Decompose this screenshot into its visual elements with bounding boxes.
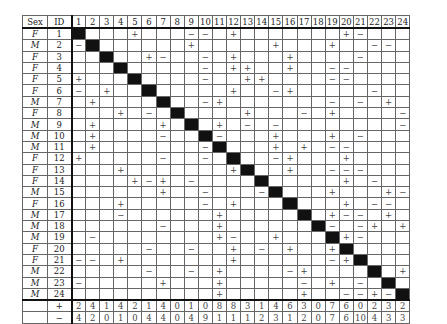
rating-cell (128, 130, 142, 141)
rating-cell (212, 175, 226, 186)
rating-cell: − (382, 288, 396, 300)
total-cell: 3 (396, 312, 410, 323)
rating-cell: + (227, 51, 241, 62)
sex-cell: M (23, 288, 48, 300)
total-cell: 0 (311, 300, 325, 312)
rating-cell (367, 28, 381, 40)
column-header: 19 (325, 16, 339, 29)
rating-cell (170, 130, 184, 141)
rating-cell (367, 254, 381, 265)
rating-cell (128, 119, 142, 130)
rating-cell (128, 198, 142, 209)
rating-cell (184, 164, 198, 175)
rating-cell (325, 85, 339, 96)
rating-cell (227, 108, 241, 119)
total-cell: 0 (353, 300, 367, 312)
rating-cell (382, 175, 396, 186)
diagonal-cell (283, 198, 297, 209)
rating-cell (156, 85, 170, 96)
rating-cell: − (198, 141, 212, 152)
rating-cell: − (198, 96, 212, 107)
total-cell: 0 (100, 312, 114, 323)
rating-cell (184, 277, 198, 288)
rating-cell: − (353, 28, 367, 40)
rating-cell: − (198, 198, 212, 209)
rating-cell (311, 175, 325, 186)
rating-cell: − (86, 254, 100, 265)
total-cell: 0 (170, 300, 184, 312)
column-header: 8 (170, 16, 184, 29)
rating-cell (339, 130, 353, 141)
total-cell: 1 (241, 312, 255, 323)
rating-cell (367, 51, 381, 62)
rating-cell (283, 277, 297, 288)
rating-cell (227, 96, 241, 107)
rating-cell (170, 243, 184, 254)
rating-cell (297, 28, 311, 40)
rating-cell (170, 254, 184, 265)
rating-cell (184, 221, 198, 232)
rating-cell (227, 119, 241, 130)
rating-cell (86, 187, 100, 198)
id-cell: 10 (48, 130, 72, 141)
diagonal-cell (339, 243, 353, 254)
rating-cell (142, 130, 156, 141)
total-cell: 2 (367, 300, 381, 312)
rating-cell: + (128, 28, 142, 40)
id-cell: 3 (48, 51, 72, 62)
sex-cell: M (23, 232, 48, 243)
diagonal-cell (227, 153, 241, 164)
rating-cell (142, 198, 156, 209)
rating-cell (382, 266, 396, 277)
rating-cell (241, 288, 255, 300)
total-cell: 4 (367, 312, 381, 323)
total-cell: 1 (227, 312, 241, 323)
column-header: 11 (212, 16, 226, 29)
rating-cell (382, 74, 396, 85)
rating-cell (156, 141, 170, 152)
rating-cell (142, 288, 156, 300)
rating-cell (170, 62, 184, 73)
rating-cell (353, 62, 367, 73)
rating-cell (255, 164, 269, 175)
rating-cell: + (212, 96, 226, 107)
rating-cell: − (156, 221, 170, 232)
table-row: M22−−+−++ (23, 266, 410, 277)
rating-cell (114, 175, 128, 186)
rating-cell (283, 96, 297, 107)
rating-cell: − (184, 243, 198, 254)
sex-cell: M (23, 221, 48, 232)
rating-cell (353, 141, 367, 152)
rating-cell (396, 164, 410, 175)
id-cell: 5 (48, 74, 72, 85)
rating-cell (114, 221, 128, 232)
rating-cell (142, 164, 156, 175)
rating-cell (198, 232, 212, 243)
column-header: 5 (128, 16, 142, 29)
rating-cell (382, 141, 396, 152)
rating-cell (255, 130, 269, 141)
rating-cell: − (269, 153, 283, 164)
rating-cell: + (156, 119, 170, 130)
rating-cell: − (156, 51, 170, 62)
column-header: 12 (227, 16, 241, 29)
rating-cell (156, 209, 170, 220)
rating-cell (297, 85, 311, 96)
total-cell: 6 (339, 300, 353, 312)
rating-cell: + (72, 74, 86, 85)
rating-cell (269, 51, 283, 62)
total-cell: 9 (198, 312, 212, 323)
rating-cell (100, 153, 114, 164)
rating-cell (367, 277, 381, 288)
rating-cell: + (325, 108, 339, 119)
rating-cell: − (353, 277, 367, 288)
rating-cell (255, 232, 269, 243)
rating-cell (269, 209, 283, 220)
sex-cell: M (23, 96, 48, 107)
rating-cell (382, 164, 396, 175)
rating-cell (396, 74, 410, 85)
diagonal-cell (297, 209, 311, 220)
table-row: F6−++−+− (23, 85, 410, 96)
rating-cell (227, 175, 241, 186)
rating-cell (114, 28, 128, 40)
